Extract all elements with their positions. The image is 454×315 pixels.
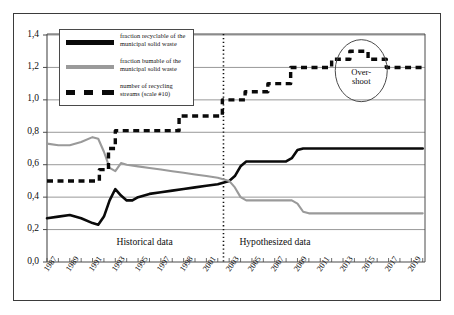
legend-swatch-bumable bbox=[66, 65, 114, 69]
y-axis-tick-label: 0,8 bbox=[15, 126, 39, 136]
legend-label-bumable: fraction bumable of themunicipal solid w… bbox=[120, 57, 192, 73]
legend-item-streams: number of recyclingstreams (scale #10) bbox=[60, 82, 193, 106]
region-label-historical: Historical data bbox=[116, 236, 172, 247]
y-axis-tick-label: 0,2 bbox=[15, 223, 39, 233]
legend-swatch-recyclable bbox=[66, 40, 114, 45]
region-label-hypothesized: Hypothesized data bbox=[239, 236, 310, 247]
y-axis-tick-label: 1,2 bbox=[15, 61, 39, 71]
y-axis-tick-label: 1,4 bbox=[15, 29, 39, 39]
annotation-overshoot: Over- shoot bbox=[338, 68, 384, 87]
legend-label-streams: number of recyclingstreams (scale #10) bbox=[120, 82, 192, 98]
chart-legend: fraction recyclable of themunicipal soli… bbox=[59, 29, 194, 106]
y-axis-tick-label: 0,4 bbox=[15, 191, 39, 201]
legend-item-bumable: fraction bumable of themunicipal solid w… bbox=[60, 57, 193, 81]
chart-screenshot: fraction recyclable of themunicipal soli… bbox=[0, 0, 454, 315]
legend-item-recyclable: fraction recyclable of themunicipal soli… bbox=[60, 32, 193, 56]
y-axis-tick-label: 1,0 bbox=[15, 93, 39, 103]
overshoot-line-1: Over- bbox=[351, 67, 371, 77]
legend-swatch-streams bbox=[66, 90, 114, 95]
y-axis-tick-label: 0,6 bbox=[15, 158, 39, 168]
y-axis-tick-label: 0,0 bbox=[15, 256, 39, 266]
overshoot-line-2: shoot bbox=[352, 76, 371, 86]
legend-label-recyclable: fraction recyclable of themunicipal soli… bbox=[120, 32, 192, 48]
